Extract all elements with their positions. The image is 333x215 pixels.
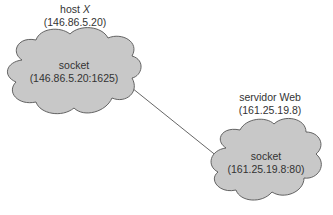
host-header: host X (146.86.5.20) xyxy=(20,3,130,29)
host-ip: (146.86.5.20) xyxy=(20,16,130,29)
host-title: host X xyxy=(20,3,130,16)
server-title: servidor Web xyxy=(220,91,320,104)
host-socket-label: socket (146.86.5.20:1625) xyxy=(10,59,138,85)
host-socket-title: socket xyxy=(10,59,138,72)
server-socket-label: socket (161.25.19.8:80) xyxy=(214,150,318,176)
server-header: servidor Web (161.25.19.8) xyxy=(220,91,320,117)
host-socket-address: (146.86.5.20:1625) xyxy=(10,72,138,85)
server-ip: (161.25.19.8) xyxy=(220,104,320,117)
socket-diagram: host X (146.86.5.20) socket (146.86.5.20… xyxy=(0,0,333,215)
connection-line xyxy=(132,88,218,157)
server-socket-address: (161.25.19.8:80) xyxy=(214,163,318,176)
server-socket-title: socket xyxy=(214,150,318,163)
